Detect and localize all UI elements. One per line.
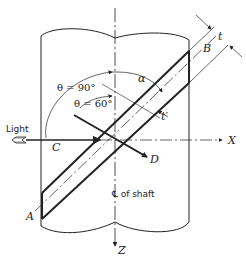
point-a-label: A [25,210,34,223]
axis-x-label: X [227,134,237,147]
thickness-dimension [189,15,242,83]
light-label: Light [6,124,29,134]
alpha-label: α [138,72,146,85]
axis-z-label: Z [117,244,126,257]
shaft-diagram: Light C D A B t t′ α θ = 90° θ = 60° X Z… [0,0,246,258]
thickness-t-label: t [218,30,223,43]
theta-60-label: θ = 60° [74,98,112,109]
theta-90-label: θ = 90° [57,82,95,93]
thickness-t-prime-label: t′ [161,110,168,123]
shaft-centerline-label: ℄ of shaft [111,189,155,199]
point-b-label: B [202,42,211,55]
point-c-label: C [52,141,61,154]
point-d-label: D [149,153,159,166]
